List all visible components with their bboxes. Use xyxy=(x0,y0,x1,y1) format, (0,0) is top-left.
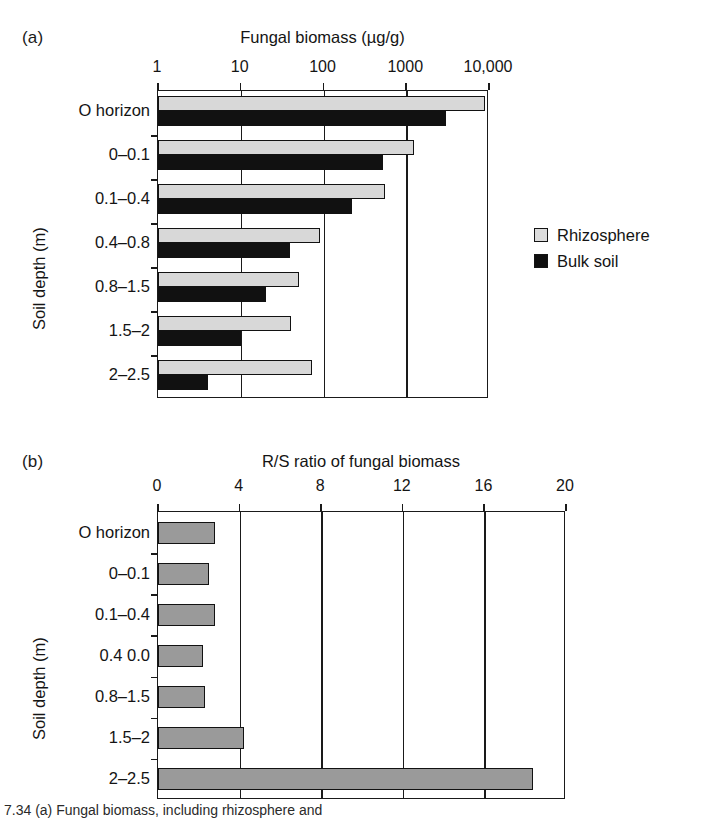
bar-rs-ratio xyxy=(158,768,533,790)
bar-bulk-soil xyxy=(158,287,266,302)
panel-b-ytick-label: 0–0.1 xyxy=(109,563,150,582)
panel-a-letter: (a) xyxy=(22,28,43,48)
panel-b-xtick-label: 8 xyxy=(316,477,325,495)
panel-a-category-notch xyxy=(151,223,158,225)
bar-bulk-soil xyxy=(158,199,352,214)
panel-b-ytick-label: O horizon xyxy=(78,522,150,541)
panel-a-ytick-label: 0.1–0.4 xyxy=(95,189,150,208)
panel-b-letter: (b) xyxy=(22,452,43,472)
legend-swatch-rhizosphere xyxy=(534,228,548,242)
bar-rs-ratio xyxy=(158,686,205,708)
panel-b-gridline xyxy=(240,512,241,798)
panel-a-category-notch xyxy=(151,135,158,137)
panel-b-xtick-labels: 048121620 xyxy=(0,477,707,497)
panel-a-tick-notch xyxy=(488,83,490,90)
panel-b-tick-notch xyxy=(157,504,159,511)
bar-rhizosphere xyxy=(158,316,291,331)
legend-swatch-bulk-soil xyxy=(534,254,548,268)
panel-a-tick-notch xyxy=(157,83,159,90)
panel-a-ytick-label: 0.8–1.5 xyxy=(95,277,150,296)
panel-b-tick-notch xyxy=(239,504,241,511)
panel-b-category-notch xyxy=(151,718,158,720)
panel-b-axis-title: R/S ratio of fungal biomass xyxy=(157,452,565,471)
bar-rs-ratio xyxy=(158,563,209,585)
panel-a-category-notch xyxy=(151,355,158,357)
panel-b-xtick-label: 0 xyxy=(153,477,162,495)
panel-a-xtick-label: 1 xyxy=(153,58,162,76)
panel-b-ytick-labels: O horizon0–0.10.1–0.40.4 0.00.8–1.51.5–2… xyxy=(0,509,150,799)
panel-a-legend: Rhizosphere Bulk soil xyxy=(534,222,650,274)
bar-bulk-soil xyxy=(158,155,383,170)
legend-item-bulk-soil: Bulk soil xyxy=(534,248,650,274)
panel-a-tick-notch xyxy=(405,83,407,90)
panel-b-tick-notch xyxy=(565,504,567,511)
panel-a-ytick-label: 1.5–2 xyxy=(109,321,150,340)
panel-a-ytick-labels: O horizon0–0.10.1–0.40.4–0.80.8–1.51.5–2… xyxy=(0,88,150,398)
panel-b-xtick-label: 12 xyxy=(393,477,411,495)
panel-a-ytick-label: 0–0.1 xyxy=(109,145,150,164)
panel-b-category-notch xyxy=(151,553,158,555)
panel-b-category-notch xyxy=(151,594,158,596)
bar-rhizosphere xyxy=(158,96,485,111)
panel-a-xtick-label: 10,000 xyxy=(464,58,513,76)
panel-a-xtick-label: 10 xyxy=(231,58,249,76)
panel-a-gridline xyxy=(406,91,407,397)
bar-rs-ratio xyxy=(158,645,203,667)
panel-a-ytick-label: O horizon xyxy=(78,101,150,120)
panel-a-xtick-label: 100 xyxy=(309,58,336,76)
panel-a-ytick-label: 2–2.5 xyxy=(109,365,150,384)
panel-b-tick-notch xyxy=(320,504,322,511)
panel-a-plot-area xyxy=(157,90,488,398)
bar-bulk-soil xyxy=(158,111,446,126)
panel-b-category-notch xyxy=(151,635,158,637)
bar-rs-ratio xyxy=(158,604,215,626)
panel-a-tick-notch xyxy=(323,83,325,90)
panel-b-tick-notch xyxy=(483,504,485,511)
panel-b-xtick-label: 16 xyxy=(474,477,492,495)
bar-bulk-soil xyxy=(158,375,208,390)
panel-b-plot-area xyxy=(157,511,565,799)
figure-caption: 7.34 (a) Fungal biomass, including rhizo… xyxy=(4,802,707,818)
panel-a-axis-title: Fungal biomass (µg/g) xyxy=(157,28,488,47)
panel-a-category-notch xyxy=(151,311,158,313)
panel-b-gridline xyxy=(484,512,485,798)
bar-rs-ratio xyxy=(158,727,244,749)
panel-b-ytick-label: 1.5–2 xyxy=(109,728,150,747)
panel-b-gridline xyxy=(403,512,404,798)
panel-a-xtick-label: 1000 xyxy=(387,58,423,76)
panel-b-ytick-label: 0.8–1.5 xyxy=(95,687,150,706)
bar-bulk-soil xyxy=(158,243,290,258)
panel-a-category-notch xyxy=(151,179,158,181)
panel-b-ytick-label: 0.4 0.0 xyxy=(100,646,150,665)
panel-b-gridline xyxy=(321,512,322,798)
panel-b-xtick-label: 20 xyxy=(556,477,574,495)
panel-a-tick-notch xyxy=(240,83,242,90)
panel-b-category-notch xyxy=(151,677,158,679)
legend-label-bulk-soil: Bulk soil xyxy=(557,252,618,271)
bar-bulk-soil xyxy=(158,331,241,346)
bar-rhizosphere xyxy=(158,184,385,199)
legend-label-rhizosphere: Rhizosphere xyxy=(557,226,650,245)
panel-b-ytick-label: 2–2.5 xyxy=(109,769,150,788)
panel-b-xtick-label: 4 xyxy=(234,477,243,495)
panel-a-gridline xyxy=(324,91,325,397)
panel-b-ytick-label: 0.1–0.4 xyxy=(95,604,150,623)
panel-a-top-ticks xyxy=(157,83,488,90)
bar-rs-ratio xyxy=(158,522,215,544)
panel-a-xtick-labels: 110100100010,000 xyxy=(0,58,707,78)
bar-rhizosphere xyxy=(158,272,299,287)
bar-rhizosphere xyxy=(158,140,414,155)
panel-a-ytick-label: 0.4–0.8 xyxy=(95,233,150,252)
panel-b-tick-notch xyxy=(402,504,404,511)
bar-rhizosphere xyxy=(158,228,320,243)
legend-item-rhizosphere: Rhizosphere xyxy=(534,222,650,248)
bar-rhizosphere xyxy=(158,360,312,375)
panel-b-category-notch xyxy=(151,759,158,761)
panel-b-top-ticks xyxy=(157,504,565,511)
panel-a-category-notch xyxy=(151,267,158,269)
